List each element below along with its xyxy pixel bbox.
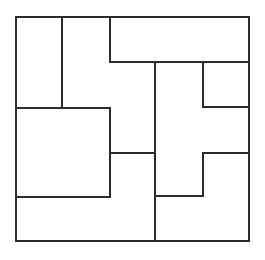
diagram-background [0,0,265,260]
figure-canvas [0,0,265,260]
rectangle-dissection-diagram [0,0,265,260]
